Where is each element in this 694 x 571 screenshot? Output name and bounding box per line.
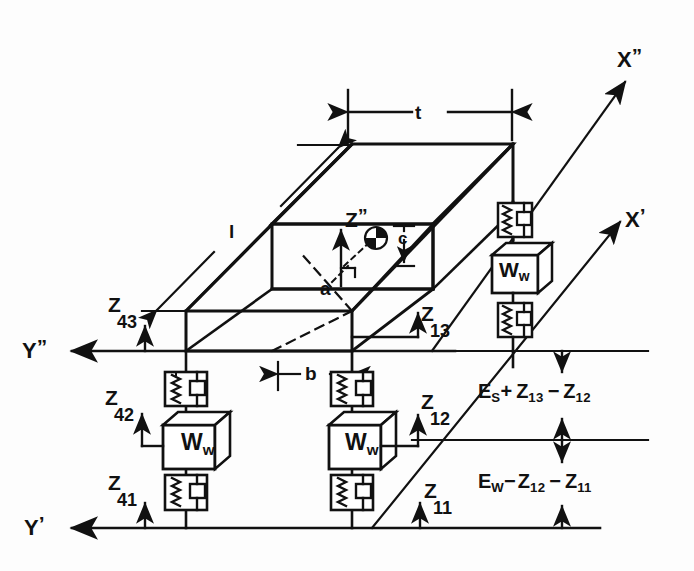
dimension-t	[348, 90, 512, 140]
leader-z42	[142, 414, 163, 446]
dimension-label-c: c	[398, 230, 407, 247]
dimension-label-a: a	[320, 279, 331, 298]
coord-label-z11: Z 11	[424, 481, 452, 517]
axis-label-x-double-prime: X”	[617, 46, 642, 71]
axis-label-y-prime: Y’	[24, 514, 44, 539]
equation-lower-gap: EW−Z12−Z11	[478, 471, 592, 494]
center-of-gravity-icon	[365, 227, 387, 249]
coord-label-z13: Z 13	[421, 304, 450, 340]
spring-damper-upper-left	[165, 372, 207, 406]
mass-label-right: Ww	[499, 259, 530, 284]
slab-body	[186, 144, 513, 351]
mass-label-left: Ww	[181, 431, 215, 457]
spring-damper-lower-center	[331, 475, 373, 510]
dimension-label-l: l	[229, 222, 234, 241]
coord-label-z41: Z 41	[108, 473, 137, 509]
spring-damper-upper-right	[498, 203, 532, 248]
coord-label-z42: Z 42	[105, 388, 134, 424]
dimension-label-b: b	[305, 364, 317, 383]
spring-damper-upper-center	[331, 372, 373, 406]
dimension-label-t: t	[415, 103, 421, 122]
coord-label-z43: Z 43	[108, 295, 137, 331]
equation-upper-gap: ES+Z13−Z12	[478, 381, 591, 404]
coord-label-z12: Z 12	[421, 392, 450, 428]
mass-label-center: Ww	[345, 431, 379, 457]
axis-label-y-double-prime: Y”	[22, 337, 47, 362]
spring-damper-lower-left	[165, 475, 207, 510]
spring-damper-lower-right	[498, 303, 532, 351]
figure-canvas: X” X’ Y” Y’ Z” t l b c a Z 43 Z 42 Z 41 …	[0, 0, 694, 571]
axis-label-z-double-prime: Z”	[345, 207, 367, 230]
axis-label-x-prime: X’	[625, 206, 645, 231]
